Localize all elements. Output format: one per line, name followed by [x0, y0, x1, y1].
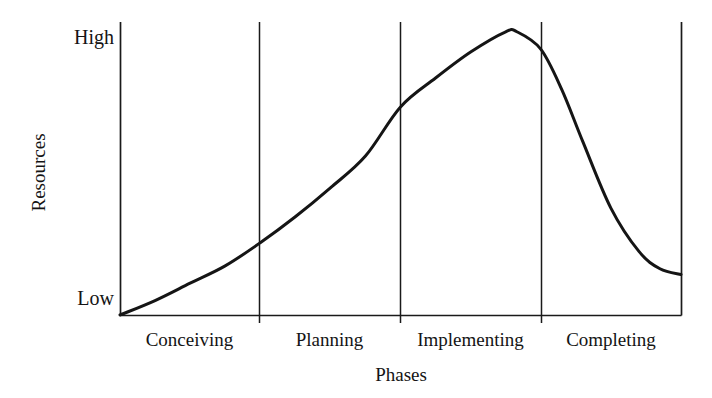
phase-label-conceiving: Conceiving	[120, 330, 259, 349]
x-axis-title: Phases	[341, 365, 461, 384]
phase-label-completing: Completing	[541, 330, 681, 349]
y-axis-title: Resources	[29, 117, 48, 229]
resource-loading-chart: High Low Resources Conceiving Planning I…	[0, 0, 712, 398]
phase-label-implementing: Implementing	[400, 330, 541, 349]
phase-label-planning: Planning	[259, 330, 400, 349]
y-tick-label-low: Low	[77, 288, 114, 308]
y-tick-label-high: High	[74, 27, 114, 47]
